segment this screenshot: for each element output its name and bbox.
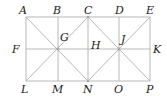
- point-J-marker: [118, 48, 121, 51]
- label-L: L: [20, 83, 28, 96]
- label-P: P: [145, 83, 154, 96]
- grid-lines: [26, 17, 150, 81]
- point-labels: A B C D E F G H J K L M N O P: [11, 4, 162, 96]
- point-N-marker: [87, 80, 89, 82]
- label-E: E: [145, 4, 154, 17]
- label-A: A: [18, 4, 27, 17]
- label-J: J: [119, 33, 126, 46]
- point-G-marker: [57, 48, 60, 51]
- label-K: K: [152, 43, 162, 56]
- label-M: M: [51, 83, 64, 96]
- label-D: D: [114, 4, 124, 17]
- label-C: C: [84, 4, 93, 17]
- label-N: N: [82, 83, 93, 96]
- label-H: H: [90, 39, 101, 52]
- label-G: G: [60, 31, 69, 44]
- label-F: F: [11, 43, 20, 56]
- geometry-diagram: A B C D E F G H J K L M N O P: [0, 0, 167, 96]
- label-O: O: [114, 83, 123, 96]
- label-B: B: [52, 4, 61, 17]
